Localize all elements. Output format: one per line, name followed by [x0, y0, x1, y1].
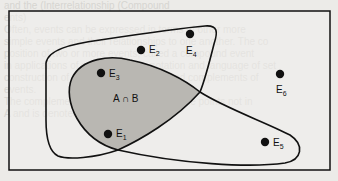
- venn-diagram: A ∩ B E1 E2 E3 E4 E5 E6: [0, 0, 338, 181]
- intersection-label: A ∩ B: [113, 93, 139, 104]
